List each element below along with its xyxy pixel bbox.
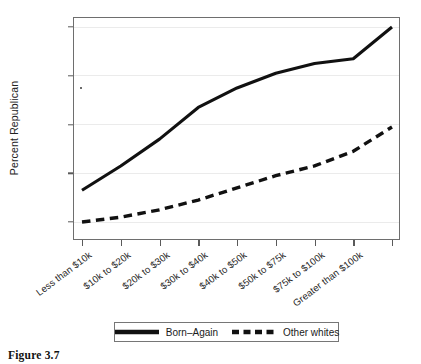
legend-swatch-solid — [114, 328, 160, 336]
figure-caption: Figure 3.7 — [8, 349, 60, 361]
x-tick-mark — [315, 240, 316, 246]
x-tick-mark — [237, 240, 238, 246]
legend-label-born-again: Born–Again — [166, 327, 218, 338]
figure-container: Percent Republican 2030405060 Less than … — [0, 0, 421, 364]
x-tick-mark — [121, 240, 122, 246]
x-tick-mark — [353, 240, 354, 246]
x-tick-label: Greater than $100k — [291, 249, 365, 309]
x-tick-mark — [160, 240, 161, 246]
gridline — [74, 173, 399, 174]
legend-label-other-whites: Other whites — [283, 327, 339, 338]
chart-legend: Born–Again Other whites — [114, 322, 339, 342]
x-tick-mark — [82, 240, 83, 246]
y-axis-label: Percent Republican — [8, 81, 20, 175]
legend-swatch-dashed — [231, 328, 277, 336]
gridline — [74, 222, 399, 223]
legend-entry-born-again: Born–Again — [114, 327, 218, 338]
x-tick-mark — [392, 240, 393, 246]
plot-area — [73, 17, 400, 240]
x-tick-label: Less than $10k — [34, 249, 94, 298]
gridline — [74, 124, 399, 125]
legend-entry-other-whites: Other whites — [231, 327, 339, 338]
x-tick-mark — [276, 240, 277, 246]
gridline — [74, 27, 399, 28]
gridline — [74, 75, 399, 76]
x-tick-mark — [198, 240, 199, 246]
